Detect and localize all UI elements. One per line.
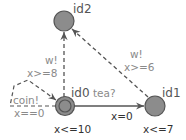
edge-id0-self-guard: x==0 bbox=[14, 107, 45, 119]
location-id1-name: id1 bbox=[162, 87, 181, 99]
edge-id0-self-sync: coin! bbox=[13, 94, 39, 106]
location-id2-name: id2 bbox=[73, 3, 92, 15]
location-id0-name: id0 bbox=[71, 87, 90, 99]
edge-id0-id1-sync: tea? bbox=[93, 87, 116, 99]
location-id0-initial-marker bbox=[59, 100, 71, 112]
edge-id1-id2-sync: w! bbox=[130, 48, 143, 60]
edge-id0-id2-guard: x>=8 bbox=[27, 67, 58, 79]
location-id0-invariant: x<=10 bbox=[54, 123, 91, 135]
edge-id0-id2-sync: w! bbox=[45, 54, 58, 66]
edge-id1-id2-guard: x>=6 bbox=[124, 61, 155, 73]
location-id1-invariant: x<=7 bbox=[143, 123, 174, 135]
edge-id0-id1-update: x=0 bbox=[111, 110, 133, 122]
location-id2[interactable] bbox=[54, 11, 74, 31]
